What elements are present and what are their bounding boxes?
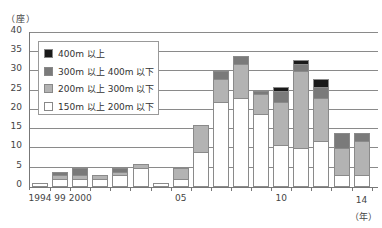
x-tick-mark <box>291 187 292 191</box>
legend-item-150-200m: 150m 以上 200m 以下 <box>44 98 158 116</box>
x-tick-mark <box>251 187 252 191</box>
y-tick-label: 35 <box>0 44 22 54</box>
bar-segment <box>253 94 269 113</box>
bar-2006 <box>193 125 209 187</box>
x-tick-mark <box>151 187 152 191</box>
legend-swatch-dark-gray <box>44 67 53 76</box>
bar-segment <box>173 179 189 187</box>
x-tick-mark <box>311 187 312 191</box>
bar-segment <box>313 79 329 87</box>
legend-swatch-black <box>44 49 53 58</box>
bar-segment <box>32 183 48 187</box>
bar-2003 <box>133 164 149 187</box>
x-tick-mark <box>50 187 51 191</box>
bar-2001 <box>92 175 108 187</box>
bar-segment <box>213 79 229 102</box>
bar-segment <box>334 175 350 187</box>
x-tick-mark <box>352 187 353 191</box>
bar-segment <box>133 168 149 187</box>
bar-segment <box>72 179 88 187</box>
legend-item-300-400m: 300m 以上 400m 以下 <box>44 63 158 81</box>
legend-item-400m-plus: 400m 以上 <box>44 45 158 63</box>
bar-2005 <box>173 168 189 187</box>
legend-label: 300m 以上 400m 以下 <box>58 65 154 78</box>
bar-2000 <box>72 168 88 187</box>
x-tick-mark <box>231 187 232 191</box>
stacked-bar-chart: （座） 0510152025303540 1994992000051014 （年… <box>0 0 382 228</box>
y-axis-line <box>29 32 30 190</box>
bar-segment <box>354 141 370 176</box>
bar-segment <box>213 102 229 187</box>
y-tick-label: 40 <box>0 25 22 35</box>
x-tick-mark <box>130 187 131 191</box>
bar-segment <box>173 168 189 180</box>
bar-2008 <box>233 56 249 187</box>
bar-2011 <box>293 60 309 187</box>
y-tick-label: 15 <box>0 121 22 131</box>
legend-swatch-light-gray <box>44 84 53 93</box>
bar-segment <box>293 64 309 72</box>
bar-2012 <box>313 79 329 187</box>
bar-segment <box>313 141 329 187</box>
bar-2004 <box>153 183 169 187</box>
x-tick-label: 05 <box>175 193 186 203</box>
bar-segment <box>354 133 370 141</box>
x-tick-label: 99 <box>54 193 65 203</box>
bar-2013 <box>334 133 350 187</box>
bar-segment <box>313 98 329 140</box>
gridline <box>29 32 378 33</box>
bar-2007 <box>213 71 229 187</box>
bar-2010 <box>273 87 289 187</box>
y-tick-label: 5 <box>0 160 22 170</box>
bar-segment <box>273 91 289 103</box>
bar-segment <box>213 71 229 79</box>
bar-2014 <box>354 133 370 187</box>
bar-segment <box>112 175 128 187</box>
x-axis-unit: （年） <box>350 210 377 223</box>
legend: 400m 以上 300m 以上 400m 以下 200m 以上 300m 以下 … <box>38 41 159 115</box>
x-tick-mark <box>372 187 373 191</box>
x-tick-mark <box>110 187 111 191</box>
bar-segment <box>52 179 68 187</box>
x-tick-mark <box>191 187 192 191</box>
bar-1999 <box>52 172 68 187</box>
bar-segment <box>193 125 209 152</box>
bar-segment <box>92 179 108 187</box>
x-tick-label: 10 <box>275 193 286 203</box>
y-tick-label: 0 <box>0 179 22 189</box>
legend-label: 400m 以上 <box>58 47 105 60</box>
y-axis-unit: （座） <box>6 12 36 25</box>
bar-segment <box>313 87 329 99</box>
y-tick-label: 30 <box>0 63 22 73</box>
x-tick-label: 2000 <box>69 193 92 203</box>
y-tick-label: 10 <box>0 140 22 150</box>
x-tick-mark <box>70 187 71 191</box>
x-tick-mark <box>271 187 272 191</box>
bar-segment <box>153 183 169 187</box>
bar-1994 <box>32 183 48 187</box>
x-tick-mark <box>90 187 91 191</box>
bar-segment <box>233 56 249 64</box>
y-tick-label: 25 <box>0 83 22 93</box>
bar-segment <box>233 64 249 99</box>
x-tick-mark <box>331 187 332 191</box>
legend-item-200-300m: 200m 以上 300m 以下 <box>44 80 158 98</box>
bar-segment <box>72 168 88 176</box>
y-tick-label: 20 <box>0 102 22 112</box>
bar-segment <box>253 114 269 187</box>
legend-label: 200m 以上 300m 以下 <box>58 82 154 95</box>
x-tick-mark <box>171 187 172 191</box>
bar-segment <box>293 71 309 148</box>
bar-segment <box>293 148 309 187</box>
x-axis-line <box>29 187 378 188</box>
legend-swatch-white <box>44 102 53 111</box>
bar-segment <box>273 102 289 144</box>
bar-segment <box>354 175 370 187</box>
bar-segment <box>334 148 350 175</box>
x-tick-label: 14 <box>356 195 367 205</box>
bar-2009 <box>253 91 269 187</box>
legend-label: 150m 以上 200m 以下 <box>58 100 154 113</box>
bar-segment <box>233 98 249 187</box>
bar-2002 <box>112 168 128 187</box>
bar-segment <box>334 133 350 148</box>
